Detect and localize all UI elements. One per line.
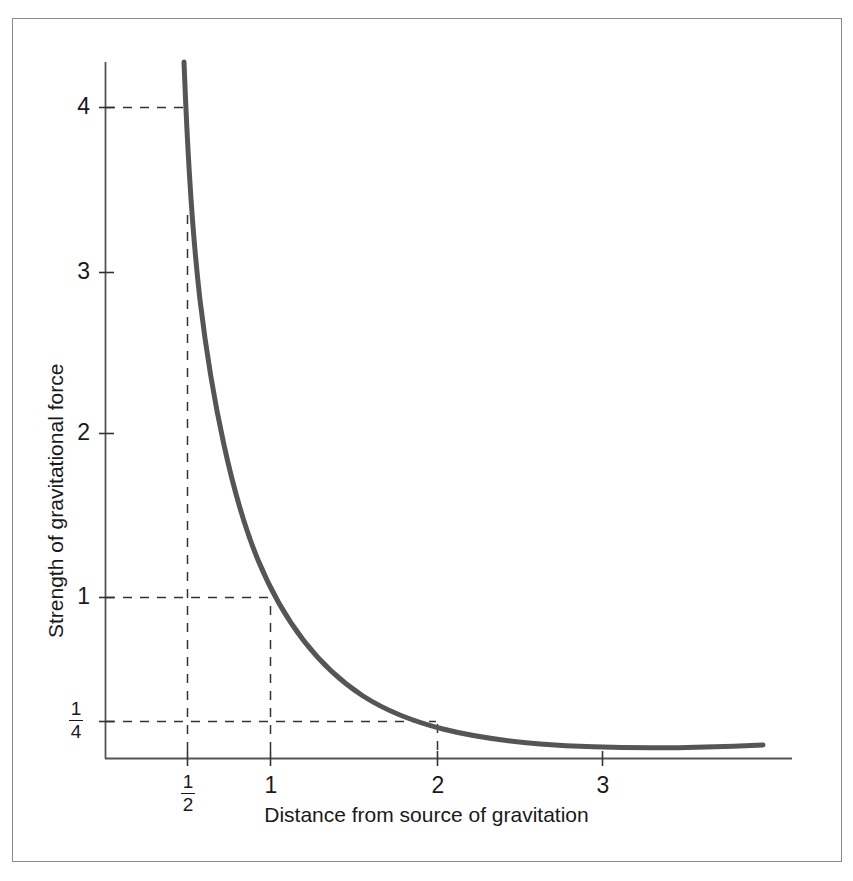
- y-tick-label-quarter: 1 4: [62, 699, 90, 742]
- inverse-square-plot: [0, 0, 853, 881]
- y-axis-ticks: [99, 108, 114, 722]
- x-tick-label-1: 1: [256, 774, 286, 797]
- x-tick-label-3: 3: [588, 774, 618, 797]
- fraction-numerator: 1: [69, 699, 84, 721]
- y-axis-title: Strength of gravitational force: [44, 238, 68, 638]
- fraction-one-quarter: 1 4: [69, 699, 84, 742]
- y-tick-label-4: 4: [60, 95, 90, 118]
- gravitation-figure: 4 3 2 1 1 4 1 2 1 2 3 Distance from sour…: [0, 0, 853, 881]
- guide-lines-double-distance: [106, 722, 438, 758]
- x-axis-title: Distance from source of gravitation: [0, 803, 853, 827]
- guide-lines-half-distance: [106, 108, 188, 758]
- x-tick-label-2: 2: [423, 774, 453, 797]
- fraction-denominator: 4: [69, 721, 84, 742]
- fraction-numerator: 1: [181, 772, 196, 794]
